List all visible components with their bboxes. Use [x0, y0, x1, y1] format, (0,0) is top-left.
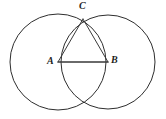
vertex-label-c: C — [79, 1, 86, 11]
segment-AC — [58, 19, 83, 62]
vertex-label-a: A — [47, 56, 54, 66]
geometry-canvas — [0, 0, 166, 119]
vertex-label-b: B — [111, 55, 118, 65]
segment-BC — [83, 19, 108, 62]
geometry-diagram: A B C — [0, 0, 166, 119]
